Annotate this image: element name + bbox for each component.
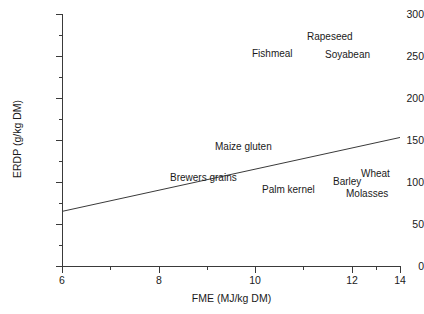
y-tick-label-250: 250 (376, 51, 424, 62)
x-tick-minor-13 (376, 267, 377, 270)
y-tick-250 (56, 56, 62, 57)
y-tick-minor-125 (59, 161, 62, 162)
y-tick-minor-25 (59, 245, 62, 246)
point-label-barley: Barley (333, 176, 361, 187)
y-tick-minor-275 (59, 35, 62, 36)
point-label-brewers-grains: Brewers grains (170, 172, 237, 183)
x-tick-label-12: 12 (332, 275, 372, 286)
y-tick-300 (56, 14, 62, 15)
y-tick-label-50: 50 (376, 219, 424, 230)
x-tick-8 (159, 267, 160, 273)
x-tick-10 (255, 267, 256, 273)
point-label-palm-kernel: Palm kernel (262, 184, 315, 195)
point-label-maize-gluten: Maize gluten (215, 141, 272, 152)
y-tick-minor-175 (59, 119, 62, 120)
x-tick-14 (400, 267, 401, 273)
x-tick-minor-11 (303, 267, 304, 270)
y-tick-label-150: 150 (376, 135, 424, 146)
x-tick-label-8: 8 (139, 275, 179, 286)
y-tick-200 (56, 98, 62, 99)
y-tick-50 (56, 224, 62, 225)
x-tick-label-14: 14 (380, 275, 420, 286)
point-label-soyabean: Soyabean (325, 49, 370, 60)
y-tick-150 (56, 140, 62, 141)
x-tick-12 (352, 267, 353, 273)
x-tick-minor-9 (207, 267, 208, 270)
y-axis-line (62, 14, 63, 267)
y-tick-100 (56, 182, 62, 183)
scatter-chart: 0 50 100 150 200 250 300 6 8 10 12 14 FM… (0, 0, 424, 314)
y-tick-minor-75 (59, 203, 62, 204)
y-tick-label-300: 300 (376, 9, 424, 20)
x-axis-line (62, 266, 401, 267)
point-label-molasses: Molasses (346, 188, 388, 199)
x-tick-minor-7 (110, 267, 111, 270)
x-axis-title: FME (MJ/kg DM) (62, 292, 401, 304)
y-tick-label-200: 200 (376, 93, 424, 104)
x-tick-label-10: 10 (235, 275, 275, 286)
y-tick-minor-225 (59, 77, 62, 78)
point-label-fishmeal: Fishmeal (252, 48, 293, 59)
x-tick-label-6: 6 (42, 275, 82, 286)
point-label-rapeseed: Rapeseed (307, 31, 353, 42)
x-tick-6 (62, 267, 63, 273)
point-label-wheat: Wheat (361, 168, 390, 179)
y-axis-title: ERDP (g/kg DM) (11, 69, 23, 209)
